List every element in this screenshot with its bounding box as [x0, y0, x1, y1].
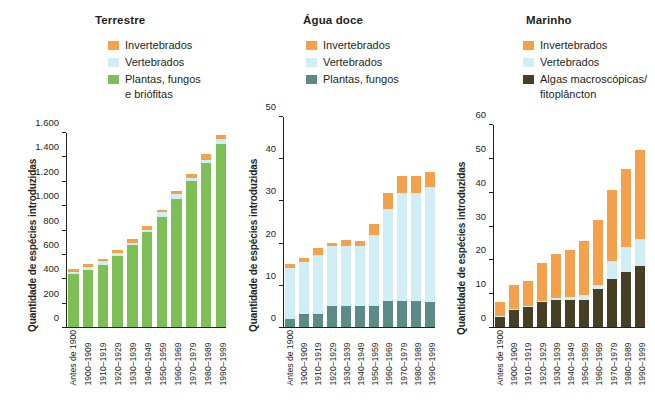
bar-1970-1979	[397, 117, 407, 327]
x-tick-label: 1990–1999	[218, 330, 228, 385]
bar-segment	[509, 285, 519, 309]
x-tick-label: 1990–1999	[427, 330, 437, 385]
x-axis-line	[493, 327, 645, 328]
legend-item-invertebrados: Invertebrados	[108, 38, 201, 53]
bar-segment	[112, 256, 123, 327]
legend-label-plantas-fungos-briofitas-continued: e briófitas	[125, 87, 201, 102]
legend-label-vertebrados: Vertebrados	[540, 55, 599, 70]
bar-segment	[313, 314, 323, 327]
y-tick-label: 1.000	[35, 190, 59, 201]
bar-segment	[621, 169, 631, 246]
x-tick-label: 1930–1939	[342, 330, 352, 385]
y-tick-label: 40	[265, 143, 276, 154]
bar-segment	[186, 181, 197, 327]
x-tick-label: 1920–1929	[538, 330, 548, 385]
legend-item-invertebrados: Invertebrados	[523, 38, 647, 53]
y-tick-label: 30	[475, 210, 486, 221]
bar-1900-1909	[299, 117, 309, 327]
y-tick-mark	[489, 158, 493, 159]
y-axis-label-terrestre: Quantidade de espécies introduzidas	[27, 159, 38, 332]
x-tick-label: 1950–1959	[370, 330, 380, 385]
y-tick-mark	[489, 293, 493, 294]
bar-segment	[537, 263, 547, 301]
x-tick-label: 1910–1919	[523, 330, 533, 385]
legend-item-vertebrados: Vertebrados	[108, 55, 201, 70]
legend-swatch-vertebrados-icon	[523, 58, 534, 67]
x-tick-label: 1930–1939	[128, 330, 138, 385]
y-tick-mark	[62, 327, 66, 328]
x-tick-label: 1900–1909	[83, 330, 93, 385]
legend-swatch-plantas-fungos-briofitas-icon	[108, 75, 119, 84]
bar-group	[285, 117, 435, 327]
bar-segment	[425, 302, 435, 327]
y-tick-mark	[62, 230, 66, 231]
bar-segment	[635, 150, 645, 239]
y-tick-mark	[489, 327, 493, 328]
bar-1950-1959	[157, 133, 168, 327]
bar-segment	[411, 176, 421, 193]
legend-label-vertebrados: Vertebrados	[323, 55, 382, 70]
y-tick-mark	[62, 156, 66, 157]
panel-marinho: Marinho InvertebradosVertebradosAlgas ma…	[448, 0, 655, 412]
y-tick-label: 30	[265, 185, 276, 196]
bar-segment	[369, 235, 379, 306]
bar-1920-1929	[327, 117, 337, 327]
x-tick-label: 1950–1959	[158, 330, 168, 385]
bar-1980-1989	[201, 133, 212, 327]
bar-segment	[425, 172, 435, 188]
x-tick-label: 1960–1969	[594, 330, 604, 385]
y-tick-label: 50	[265, 101, 276, 112]
x-tick-label: 1960–1969	[384, 330, 394, 385]
bar-segment	[341, 306, 351, 327]
bar-segment	[509, 310, 519, 328]
legend-label-invertebrados: Invertebrados	[125, 38, 192, 53]
bar-segment	[593, 289, 603, 327]
panel-title-agua-doce: Água doce	[303, 14, 363, 26]
legend-label-algas-fitoplancton-continued: fitoplâncton	[540, 87, 647, 102]
y-tick-label: 0	[54, 312, 59, 323]
y-tick-mark	[279, 285, 283, 286]
bar-segment	[523, 281, 533, 306]
x-tick-label: 1940–1949	[143, 330, 153, 385]
bar-1900-1909	[83, 133, 94, 327]
bar-segment	[383, 193, 393, 210]
bar-segment	[216, 144, 227, 327]
bar-segment	[495, 302, 505, 316]
x-tick-label: Antes de 1900	[285, 330, 295, 385]
bar-segment	[425, 187, 435, 302]
x-tick-label: 1940–1949	[356, 330, 366, 385]
plot-area-agua-doce: 01020304050	[283, 117, 435, 328]
bar-segment	[327, 246, 337, 306]
y-tick-mark	[62, 132, 66, 133]
bar-segment	[127, 245, 138, 327]
bar-1940-1949	[565, 125, 575, 327]
bar-segment	[411, 301, 421, 327]
y-tick-label: 1.200	[35, 165, 59, 176]
bar-1990-1999	[425, 117, 435, 327]
bar-segment	[621, 272, 631, 327]
y-tick-label: 10	[265, 269, 276, 280]
bar-segment	[411, 193, 421, 302]
bar-segment	[607, 261, 617, 279]
x-tick-label: 1990–1999	[637, 330, 647, 385]
panel-title-terrestre: Terrestre	[95, 14, 145, 26]
x-tick-label: Antes de 1900	[495, 330, 505, 385]
bar-segment	[299, 262, 309, 314]
legend-label-plantas-fungos: Plantas, fungos	[323, 72, 399, 87]
bar-segment	[355, 306, 365, 327]
x-tick-label: Antes de 1900	[68, 330, 78, 385]
bar-1990-1999	[635, 125, 645, 327]
x-axis-labels-marinho: Antes de 19001900–19091910–19191920–1929…	[495, 330, 647, 385]
bar-1980-1989	[411, 117, 421, 327]
bar-segment	[285, 268, 295, 318]
y-tick-mark	[489, 226, 493, 227]
bar-segment	[607, 279, 617, 327]
x-tick-label: 1970–1979	[399, 330, 409, 385]
bar-segment	[83, 270, 94, 327]
bar-1920-1929	[112, 133, 123, 327]
legend-swatch-invertebrados-icon	[108, 41, 119, 50]
panel-agua-doce: Água doce InvertebradosVertebradosPlanta…	[240, 0, 448, 412]
x-axis-line	[283, 327, 435, 328]
y-tick-mark	[62, 205, 66, 206]
figure-three-panel-bar-charts: Terrestre InvertebradosVertebradosPlanta…	[0, 0, 655, 412]
